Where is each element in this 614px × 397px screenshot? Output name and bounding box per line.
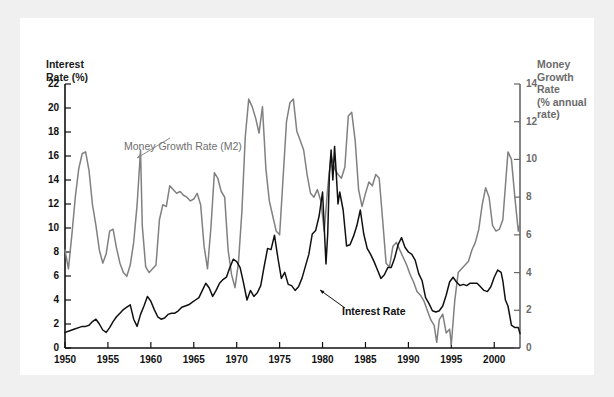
right-tick-14: 14	[526, 78, 550, 89]
left-tick-8: 8	[37, 246, 59, 257]
right-tick-0: 0	[526, 342, 550, 353]
left-tick-0: 0	[37, 342, 59, 353]
rate-annotation-arrowhead	[320, 290, 324, 294]
chart-plot-area	[20, 18, 594, 375]
left-tick-4: 4	[37, 294, 59, 305]
chart-panel: Interest Rate (%) Money Growth Rate (% a…	[20, 18, 594, 375]
right-axis-title: Money Growth Rate (% annual rate)	[537, 58, 594, 121]
x-tick-1995: 1995	[431, 354, 471, 365]
figure-root: Interest Rate (%) Money Growth Rate (% a…	[0, 0, 614, 397]
x-tick-1975: 1975	[260, 354, 300, 365]
right-tick-2: 2	[526, 304, 550, 315]
left-tick-18: 18	[37, 126, 59, 137]
left-tick-22: 22	[37, 78, 59, 89]
x-tick-1960: 1960	[131, 354, 171, 365]
x-tick-1990: 1990	[388, 354, 428, 365]
left-tick-2: 2	[37, 318, 59, 329]
right-tick-4: 4	[526, 267, 550, 278]
left-tick-6: 6	[37, 270, 59, 281]
money-growth-annotation-label: Money Growth Rate (M2)	[124, 140, 242, 152]
x-tick-1980: 1980	[303, 354, 343, 365]
x-tick-1970: 1970	[217, 354, 257, 365]
x-tick-1985: 1985	[345, 354, 385, 365]
right-tick-8: 8	[526, 191, 550, 202]
x-tick-1950: 1950	[45, 354, 85, 365]
interest-rate-annotation-label: Interest Rate	[342, 305, 406, 317]
axis-frame	[65, 84, 520, 348]
series-line-money-growth-rate	[65, 99, 520, 344]
x-tick-1955: 1955	[88, 354, 128, 365]
left-tick-12: 12	[37, 198, 59, 209]
x-tick-1965: 1965	[174, 354, 214, 365]
right-tick-10: 10	[526, 153, 550, 164]
left-tick-16: 16	[37, 150, 59, 161]
right-tick-12: 12	[526, 116, 550, 127]
right-tick-6: 6	[526, 229, 550, 240]
axis-ticks	[65, 84, 520, 348]
x-tick-2000: 2000	[474, 354, 514, 365]
left-tick-14: 14	[37, 174, 59, 185]
left-tick-10: 10	[37, 222, 59, 233]
left-tick-20: 20	[37, 102, 59, 113]
